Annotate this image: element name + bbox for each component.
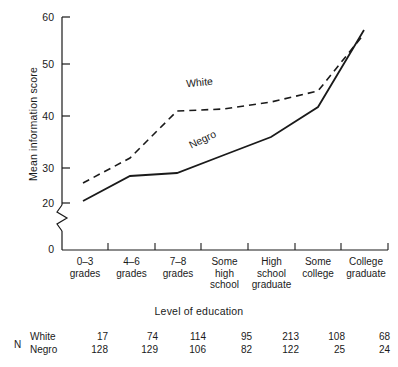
series-line-white bbox=[83, 34, 364, 183]
n-table-cell: 74 bbox=[124, 331, 158, 342]
x-category-line2: high bbox=[201, 268, 248, 280]
x-category-line2: grades bbox=[108, 268, 155, 280]
x-category-line1: 7–8 bbox=[155, 256, 201, 268]
x-category-line1: Some bbox=[201, 256, 248, 268]
n-table-cell: 108 bbox=[311, 331, 345, 342]
x-category-label-4-6-grades: 4–6 grades bbox=[108, 256, 155, 279]
x-category-line3: school bbox=[201, 279, 248, 291]
n-table-cell: 122 bbox=[265, 344, 299, 355]
n-table-row-label: White bbox=[30, 331, 76, 342]
chart-figure: Mean information score 60 50 40 30 20 0 bbox=[0, 0, 398, 367]
n-table-cell: 25 bbox=[311, 344, 345, 355]
x-category-label-some-high-school: Some high school bbox=[201, 256, 248, 291]
n-table-cell: 114 bbox=[172, 331, 206, 342]
x-category-line2: school bbox=[248, 268, 295, 280]
x-category-label-college-graduate: College graduate bbox=[341, 256, 391, 279]
x-category-line3: graduate bbox=[248, 279, 295, 291]
y-axis-break-symbol bbox=[57, 205, 67, 231]
series-label-white: White bbox=[186, 75, 214, 89]
x-category-line2: college bbox=[295, 268, 341, 280]
n-table-cell: 24 bbox=[356, 344, 390, 355]
n-table-cell: 68 bbox=[356, 331, 390, 342]
x-category-line1: 0–3 bbox=[62, 256, 108, 268]
x-category-line2: grades bbox=[62, 268, 108, 280]
x-category-line1: College bbox=[341, 256, 391, 268]
x-category-line1: Some bbox=[295, 256, 341, 268]
n-table-cell: 213 bbox=[265, 331, 299, 342]
n-table-row-white: White 17 74 114 95 213 108 68 bbox=[0, 331, 398, 344]
x-category-label-some-college: Some college bbox=[295, 256, 341, 279]
x-category-line1: 4–6 bbox=[108, 256, 155, 268]
x-category-line1: High bbox=[248, 256, 295, 268]
n-table-cell: 82 bbox=[218, 344, 252, 355]
x-category-label-7-8-grades: 7–8 grades bbox=[155, 256, 201, 279]
n-table-cell: 17 bbox=[74, 331, 108, 342]
x-category-label-high-school-graduate: High school graduate bbox=[248, 256, 295, 291]
n-table-cell: 95 bbox=[218, 331, 252, 342]
n-table-cell: 128 bbox=[74, 344, 108, 355]
x-category-line2: grades bbox=[155, 268, 201, 280]
x-category-label-0-3-grades: 0–3 grades bbox=[62, 256, 108, 279]
x-category-line2: graduate bbox=[341, 268, 391, 280]
n-table-cell: 106 bbox=[172, 344, 206, 355]
x-axis-title: Level of education bbox=[0, 305, 398, 317]
n-table-row-label: Negro bbox=[30, 344, 76, 355]
n-table-cell: 129 bbox=[124, 344, 158, 355]
n-table-row-negro: Negro 128 129 106 82 122 25 24 bbox=[0, 344, 398, 357]
n-table: N White 17 74 114 95 213 108 68 Negro 12… bbox=[0, 331, 398, 357]
series-line-negro bbox=[83, 30, 364, 201]
